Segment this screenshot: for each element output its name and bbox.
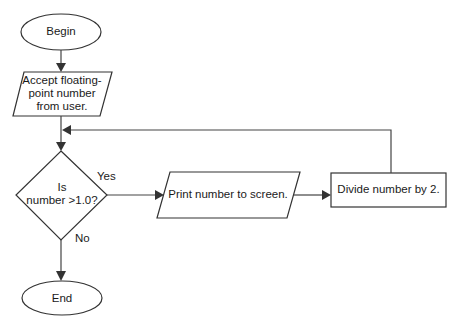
divide-label: Divide number by 2. [331, 183, 446, 196]
arrowhead-icon [56, 63, 66, 72]
print-label: Print number to screen. [160, 188, 296, 201]
input-label-line-1: Accept floating- [14, 74, 110, 87]
end-label: End [22, 292, 102, 305]
input-label-line-2: point number [14, 87, 110, 100]
flowchart-canvas [0, 0, 454, 327]
arrowhead-icon [56, 142, 66, 151]
input-label: Accept floating- point number from user. [14, 74, 110, 113]
begin-label: Begin [21, 25, 101, 38]
arrowhead-icon [62, 125, 71, 135]
decision-label-line-1: Is [14, 181, 110, 194]
arrowhead-icon [322, 190, 331, 200]
decision-label-line-2: number >1.0? [14, 194, 110, 207]
decision-label: Is number >1.0? [14, 181, 110, 207]
no-label: No [75, 232, 90, 245]
input-label-line-3: from user. [14, 100, 110, 113]
arrowhead-icon [56, 271, 66, 281]
yes-label: Yes [97, 170, 116, 183]
connector-loop-back [70, 130, 391, 173]
